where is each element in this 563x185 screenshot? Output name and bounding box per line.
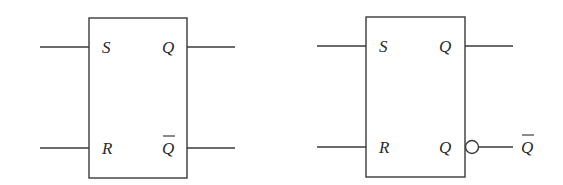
label-r-2: R — [378, 138, 390, 157]
inversion-bubble-icon — [466, 141, 479, 154]
label-r-1: R — [101, 139, 113, 158]
label-s-2: S — [379, 37, 388, 56]
label-qbar-external-2: Q — [521, 138, 533, 157]
label-s-1: S — [102, 38, 111, 57]
label-q-1: Q — [162, 38, 174, 57]
label-qbar-1: Q — [162, 139, 174, 158]
latch-block-2: S R Q Q Q — [317, 17, 534, 177]
label-q-internal-2: Q — [439, 138, 451, 157]
latch-block-1: S R Q Q — [40, 18, 235, 178]
sr-latch-diagram: S R Q Q S R Q Q Q — [0, 0, 563, 185]
label-q-2: Q — [439, 37, 451, 56]
